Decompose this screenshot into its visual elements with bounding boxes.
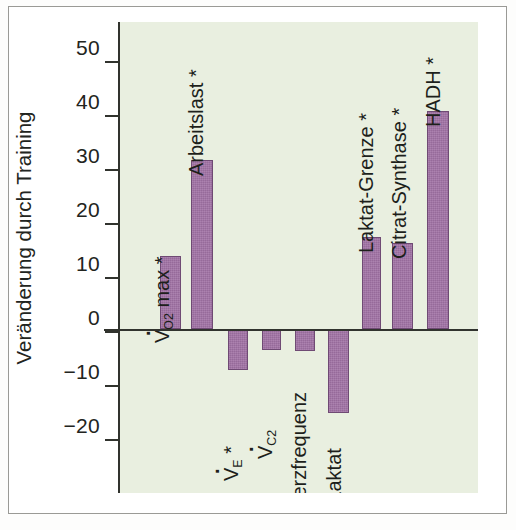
- ytick-mark-20: [105, 223, 120, 225]
- vco2-v-glyph: V: [254, 446, 276, 459]
- ytick-mark-40: [105, 115, 120, 117]
- ytick-label-minus10: −10: [56, 360, 100, 384]
- vo2-star: *: [151, 256, 173, 264]
- ve-v-glyph: V: [220, 468, 242, 481]
- bar-label-laktat-grenze: Laktat-Grenze *: [355, 113, 378, 253]
- bar-hadh[interactable]: [427, 111, 449, 329]
- vco2-sub-c: C: [265, 437, 279, 446]
- ytick-mark-0: [105, 331, 120, 333]
- ytick-mark-minus10: [105, 385, 120, 387]
- laktat-text: Laktat: [323, 448, 345, 493]
- ytick-label-minus20: −20: [56, 414, 100, 438]
- ytick-label-20: 20: [56, 198, 100, 222]
- arbeitslast-text: Arbeitslast: [185, 83, 207, 176]
- bar-arbeitslast[interactable]: [191, 160, 213, 329]
- ytick-label-10: 10: [56, 252, 100, 276]
- vo2-v-glyph: V: [151, 330, 173, 343]
- bar-ve[interactable]: [228, 329, 248, 370]
- bar-herzfrequenz[interactable]: [295, 329, 315, 351]
- ve-sub-e: E: [231, 459, 245, 467]
- plot-area: VO2 max * Arbeitslast * VE * VC2 Herzfre…: [120, 22, 478, 493]
- bar-label-arbeitslast: Arbeitslast *: [185, 69, 208, 176]
- ytick-mark-minus20: [105, 439, 120, 441]
- vco2-sub-2: 2: [265, 430, 279, 437]
- figure-container: VO2 max * Arbeitslast * VE * VC2 Herzfre…: [0, 0, 516, 530]
- bar-label-herzfrequenz: Herzfrequenz: [288, 392, 311, 493]
- vo2-max-text: max: [151, 270, 173, 313]
- hadh-star: *: [422, 57, 444, 65]
- ytick-label-40: 40: [56, 90, 100, 114]
- laktat-grenze-text: Laktat-Grenze: [355, 126, 377, 253]
- bar-label-laktat: * Laktat: [323, 448, 346, 493]
- bar-vco2[interactable]: [262, 329, 281, 350]
- ytick-label-30: 30: [56, 144, 100, 168]
- y-axis-label: Veränderung durch Training: [12, 68, 36, 408]
- ytick-mark-30: [105, 169, 120, 171]
- ytick-label-50: 50: [56, 36, 100, 60]
- ytick-label-0: 0: [56, 306, 100, 330]
- ytick-mark-50: [105, 61, 120, 63]
- citrat-synthase-star: *: [388, 108, 410, 116]
- citrat-synthase-text: Citrat-Synthase: [388, 121, 410, 259]
- zero-baseline: [104, 329, 478, 331]
- ytick-minus20: −20: [0, 414, 100, 440]
- arbeitslast-star: *: [185, 69, 207, 77]
- laktat-grenze-star: *: [355, 113, 377, 121]
- hadh-text: HADH: [422, 70, 444, 127]
- vo2-sub-2: 2: [162, 313, 176, 320]
- bar-label-citrat-synthase: Citrat-Synthase *: [388, 108, 411, 259]
- ytick-mark-10: [105, 277, 120, 279]
- y-axis-spine: [118, 22, 120, 493]
- bar-label-hadh: HADH *: [422, 57, 445, 127]
- herzfrequenz-text: Herzfrequenz: [288, 392, 310, 493]
- ytick-50: 50: [0, 36, 100, 62]
- bar-laktat[interactable]: [328, 329, 349, 413]
- bar-label-vco2: VC2: [254, 430, 277, 459]
